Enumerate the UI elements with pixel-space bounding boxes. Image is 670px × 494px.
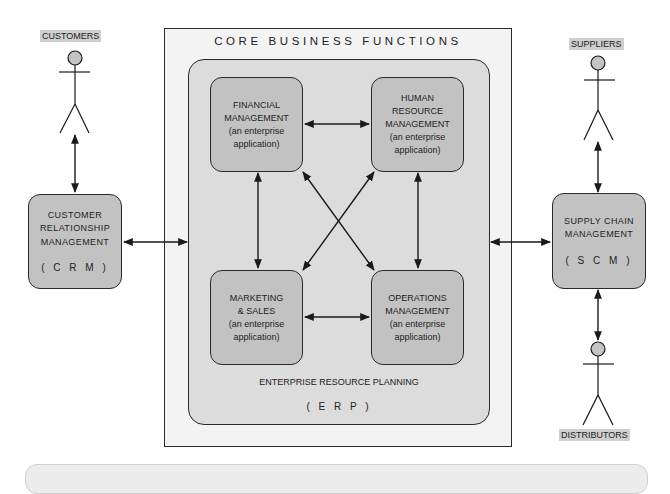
module-subtitle: application)	[233, 138, 279, 151]
suppliers-actor-icon	[584, 56, 615, 140]
financial-management-box: FINANCIAL MANAGEMENT (an enterprise appl…	[210, 77, 303, 172]
crm-title: MANAGEMENT	[41, 236, 110, 250]
distributors-actor-icon	[583, 342, 614, 425]
module-title: MARKETING	[230, 292, 284, 305]
module-subtitle: (an enterprise	[229, 318, 285, 331]
module-subtitle: (an enterprise	[390, 318, 446, 331]
marketing-sales-box: MARKETING & SALES (an enterprise applica…	[210, 270, 303, 365]
module-title: OPERATIONS	[388, 292, 446, 305]
suppliers-label: SUPPLIERS	[569, 38, 624, 50]
crm-title: RELATIONSHIP	[40, 222, 110, 236]
module-subtitle: (an enterprise	[390, 131, 446, 144]
scm-box: SUPPLY CHAIN MANAGEMENT ( S C M )	[552, 193, 646, 289]
caption-panel	[25, 464, 648, 494]
scm-abbreviation: ( S C M )	[566, 254, 633, 268]
module-title: MANAGEMENT	[385, 118, 450, 131]
module-title: RESOURCE	[392, 105, 443, 118]
module-title: MANAGEMENT	[385, 305, 450, 318]
customers-label: CUSTOMERS	[40, 30, 101, 42]
crm-abbreviation: ( C R M )	[41, 261, 109, 275]
module-subtitle: application)	[394, 144, 440, 157]
distributors-label: DISTRIBUTORS	[559, 429, 630, 441]
customers-actor-icon	[59, 51, 90, 133]
scm-title: MANAGEMENT	[565, 228, 634, 242]
crm-title: CUSTOMER	[48, 209, 103, 223]
scm-title: SUPPLY CHAIN	[564, 215, 634, 229]
module-title: FINANCIAL	[233, 99, 280, 112]
module-subtitle: (an enterprise	[229, 125, 285, 138]
module-title: HUMAN	[401, 92, 434, 105]
module-title: & SALES	[238, 305, 276, 318]
module-subtitle: application)	[233, 331, 279, 344]
operations-management-box: OPERATIONS MANAGEMENT (an enterprise app…	[371, 270, 464, 365]
module-title: MANAGEMENT	[224, 112, 289, 125]
crm-box: CUSTOMER RELATIONSHIP MANAGEMENT ( C R M…	[28, 194, 122, 289]
human-resource-management-box: HUMAN RESOURCE MANAGEMENT (an enterprise…	[371, 77, 464, 172]
module-subtitle: application)	[394, 331, 440, 344]
